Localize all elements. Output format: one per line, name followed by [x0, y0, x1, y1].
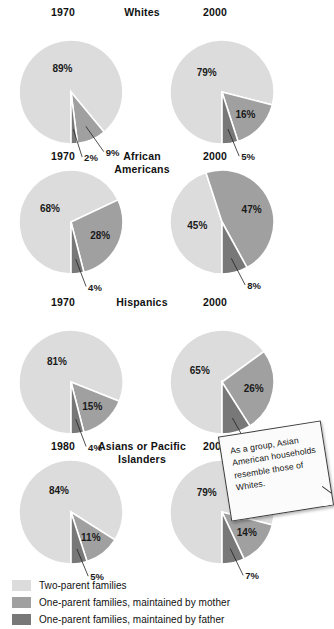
- pie-svg: 89%9%2%: [12, 34, 130, 152]
- pie-chart-african-americans-1970: 68%28%4%: [12, 164, 130, 282]
- pie-chart-african-americans-2000: 45%47%8%: [163, 164, 281, 282]
- pie-svg: 81%15%4%: [12, 324, 130, 442]
- slice-value-label: 65%: [190, 365, 210, 376]
- slice-value-label: 47%: [242, 204, 262, 215]
- group-header: 1970 Hispanics 2000: [0, 296, 333, 324]
- slice-value-label: 79%: [197, 67, 217, 78]
- pie-chart-hispanics-2000: 65%26%9%: [163, 324, 281, 442]
- slice-value-label: 89%: [52, 63, 72, 74]
- year-label-right: 2000: [190, 296, 240, 308]
- legend-label: Two-parent families: [39, 580, 127, 592]
- pie-svg: 84%11%5%: [12, 454, 130, 572]
- slice-value-label: 16%: [235, 109, 255, 120]
- pie-chart-whites-1970: 89%9%2%: [12, 34, 130, 152]
- slice-value-label: 84%: [49, 485, 69, 496]
- slice-value-label: 14%: [237, 527, 257, 538]
- legend: Two-parent families One-parent families,…: [12, 578, 322, 629]
- group-header: 1970 Whites 2000: [0, 6, 333, 34]
- chart-group-african-americans: 1970 African Americans 2000 68%28%4% 45%…: [0, 150, 333, 284]
- slice-value-label: 28%: [90, 230, 110, 241]
- slice-value-label: 81%: [47, 356, 67, 367]
- legend-item-father: One-parent families, maintained by fathe…: [12, 612, 322, 627]
- pie-row: 68%28%4% 45%47%8%: [0, 164, 333, 284]
- year-label-left: 1970: [38, 150, 88, 162]
- legend-item-mother: One-parent families, maintained by mothe…: [12, 595, 322, 610]
- legend-swatch-icon: [12, 597, 31, 608]
- legend-item-two-parent: Two-parent families: [12, 578, 322, 593]
- legend-label: One-parent families, maintained by fathe…: [39, 614, 224, 626]
- pie-chart-whites-2000: 79%16%5%: [163, 34, 281, 152]
- pie-row: 89%9%2% 79%16%5%: [0, 34, 333, 154]
- year-label-left: 1970: [38, 296, 88, 308]
- legend-label: One-parent families, maintained by mothe…: [39, 597, 230, 609]
- chart-group-hispanics: 1970 Hispanics 2000 81%15%4% 65%26%9%: [0, 296, 333, 444]
- slice-value-label: 15%: [82, 401, 102, 412]
- group-title-line: Asians or Pacific: [80, 440, 204, 453]
- year-label-left: 1970: [38, 6, 88, 18]
- slice-value-label: 45%: [187, 220, 207, 231]
- chart-group-whites: 1970 Whites 2000 89%9%2% 79%16%5%: [0, 6, 333, 154]
- note-fold-edge: [322, 486, 333, 494]
- pie-chart-asians-1980: 84%11%5%: [12, 454, 130, 572]
- group-title-line: Hispanics: [96, 296, 188, 309]
- pie-svg: 65%26%9%: [163, 324, 281, 442]
- slice-value-label: 68%: [40, 203, 60, 214]
- group-title-line: Whites: [96, 6, 188, 19]
- group-title-line: African: [96, 150, 188, 163]
- group-title: Whites: [96, 6, 188, 19]
- year-label-right: 2000: [190, 6, 240, 18]
- pie-chart-hispanics-1970: 81%15%4%: [12, 324, 130, 442]
- legend-swatch-icon: [12, 614, 31, 625]
- slice-value-label: 11%: [81, 532, 101, 543]
- slice-value-label: 26%: [244, 383, 264, 394]
- note-fold-corner: [322, 494, 334, 507]
- slice-value-label: 4%: [88, 282, 102, 293]
- pie-svg: 79%16%5%: [163, 34, 281, 152]
- callout-note: As a group, Asian American households re…: [218, 420, 334, 521]
- callout-note-text: As a group, Asian American households re…: [230, 435, 317, 492]
- slice-value-label: 79%: [197, 487, 217, 498]
- pie-svg: 45%47%8%: [163, 164, 281, 282]
- group-title: Hispanics: [96, 296, 188, 309]
- slice-value-label: 8%: [247, 280, 261, 291]
- year-label-right: 2000: [190, 150, 240, 162]
- pie-svg: 68%28%4%: [12, 164, 130, 282]
- legend-swatch-icon: [12, 580, 31, 591]
